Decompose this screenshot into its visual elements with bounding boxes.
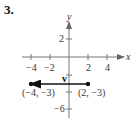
y-axis-label: y (66, 11, 72, 22)
x-tick-2: 2 (86, 62, 91, 73)
x-axis-label: x (125, 51, 131, 62)
vector-label: v (62, 73, 67, 84)
point-end (86, 82, 90, 86)
point-start (29, 82, 33, 86)
coordinate-plane: x y −4 −2 2 4 2 −6 v (−4, −3) (2, −3) (0, 0, 136, 128)
x-tick-neg4: −4 (26, 62, 37, 73)
point-label-right: (2, −3) (78, 87, 105, 99)
y-tick-2: 2 (59, 33, 64, 44)
x-tick-neg2: −2 (44, 62, 55, 73)
point-label-left: (−4, −3) (22, 87, 55, 99)
x-tick-4: 4 (105, 62, 110, 73)
y-tick-neg6: −6 (54, 103, 65, 114)
